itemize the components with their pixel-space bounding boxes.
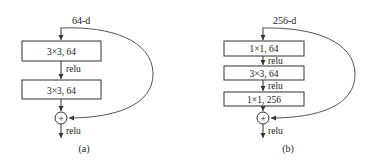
add-symbol: + xyxy=(260,113,266,124)
conv-layer-label: 1×1, 64 xyxy=(249,44,278,54)
resnet-blocks-figure: 64-d 3×3, 64 relu 3×3, 64 + relu (a) 256… xyxy=(0,0,372,167)
conv-layer-label: 1×1, 256 xyxy=(247,95,281,105)
caption: (a) xyxy=(78,143,89,155)
input-dim-label: 256-d xyxy=(273,15,296,26)
conv-layer-label: 3×3, 64 xyxy=(47,86,76,96)
output-relu-label: relu xyxy=(268,126,283,136)
conv-layer-label: 3×3, 64 xyxy=(249,69,278,79)
relu-label: relu xyxy=(268,56,283,66)
input-dim-label: 64-d xyxy=(72,15,90,26)
relu-label: relu xyxy=(66,64,81,74)
caption: (b) xyxy=(282,143,294,155)
conv-layer-label: 3×3, 64 xyxy=(47,47,76,57)
output-relu-label: relu xyxy=(66,126,81,136)
relu-label: relu xyxy=(268,81,283,91)
bottleneck-block-diagram: 256-d 1×1, 64 relu 3×3, 64 relu 1×1, 256… xyxy=(224,15,355,155)
basic-block-diagram: 64-d 3×3, 64 relu 3×3, 64 + relu (a) xyxy=(22,15,153,155)
add-symbol: + xyxy=(58,113,64,124)
